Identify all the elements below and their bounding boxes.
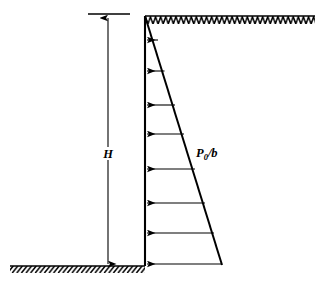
pressure-label-rest: /b	[207, 146, 218, 160]
figure-container: H P0/b	[0, 0, 329, 292]
top-ground-surface	[145, 16, 315, 24]
height-label: H	[102, 147, 114, 161]
bottom-ground-surface	[10, 266, 145, 273]
figure-background	[0, 0, 329, 292]
bottom-ground-hatching	[10, 266, 145, 273]
top-ground-hatching	[145, 16, 315, 24]
retaining-wall-diagram: H P0/b	[0, 0, 329, 292]
